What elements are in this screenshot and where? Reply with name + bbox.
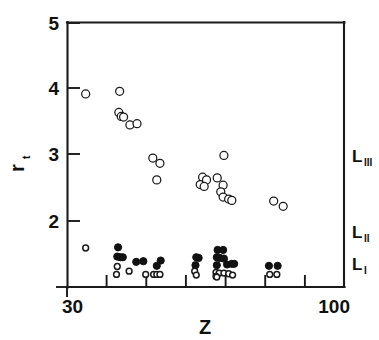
series-points-l1 <box>83 245 280 280</box>
data-point-l3 <box>200 182 208 190</box>
data-point-l3 <box>133 120 141 128</box>
data-point-l1 <box>114 272 120 278</box>
data-point-l3 <box>153 176 161 184</box>
data-point-l3 <box>220 151 228 159</box>
data-point-l1 <box>157 272 163 278</box>
data-point-l3 <box>279 202 287 210</box>
data-point-l2 <box>153 262 160 269</box>
series-points-l2 <box>114 244 282 270</box>
data-point-l1 <box>230 272 236 278</box>
data-point-l3 <box>270 197 278 205</box>
scatter-plot-figure: 5 4 3 2 30 100 Z r t <box>0 0 379 340</box>
data-point-l2 <box>119 254 126 261</box>
data-point-l1 <box>193 272 199 278</box>
series-label-l3: L III <box>352 147 373 168</box>
data-point-l2 <box>274 262 281 269</box>
data-point-l2 <box>231 260 238 267</box>
series-label-l3-base: L <box>352 147 362 166</box>
data-point-l2 <box>140 258 147 265</box>
data-point-l1 <box>214 274 220 280</box>
y-axis-title-subscript: t <box>21 155 32 159</box>
data-point-l1 <box>114 264 120 270</box>
data-point-l3 <box>156 159 164 167</box>
data-point-l2 <box>213 262 220 269</box>
data-point-l3 <box>213 174 221 182</box>
series-label-l2-base: L <box>352 223 362 242</box>
y-tick-label-4: 4 <box>48 78 59 99</box>
x-axis-title: Z <box>199 316 211 338</box>
y-tick-label-5: 5 <box>48 13 59 34</box>
data-point-l2 <box>265 262 272 269</box>
series-label-l1-subscript: I <box>364 265 367 276</box>
data-point-l3 <box>82 90 90 98</box>
y-axis-title: r t <box>6 155 32 172</box>
y-tick-label-3: 3 <box>48 144 59 165</box>
data-point-l1 <box>274 272 280 278</box>
series-label-l2-subscript: II <box>364 233 370 244</box>
data-point-l2 <box>195 254 202 261</box>
series-points-l3 <box>82 87 288 210</box>
data-point-l3 <box>149 154 157 162</box>
data-point-l2 <box>133 258 140 265</box>
x-axis-tick-labels: 30 100 <box>62 296 350 317</box>
series-label-l1-base: L <box>352 255 362 274</box>
data-point-l1 <box>83 245 89 251</box>
x-tick-label-100: 100 <box>318 296 350 317</box>
series-label-l1: L I <box>352 255 367 276</box>
series-label-l3-subscript: III <box>364 157 373 168</box>
data-point-l1 <box>143 272 149 278</box>
x-tick-label-30: 30 <box>62 296 83 317</box>
series-label-l2: L II <box>352 223 370 244</box>
data-point-l1 <box>267 272 273 278</box>
data-point-l2 <box>114 244 121 251</box>
y-axis-title-base: r <box>6 164 28 172</box>
data-point-l1 <box>126 268 132 274</box>
axis-frame <box>67 22 345 288</box>
y-tick-label-2: 2 <box>48 211 59 232</box>
data-point-l3 <box>228 196 236 204</box>
plot-svg: 5 4 3 2 30 100 Z r t <box>0 0 379 340</box>
data-point-l3 <box>116 87 124 95</box>
data-point-l2 <box>220 246 227 253</box>
data-point-l3 <box>120 113 128 121</box>
y-axis-tick-labels: 5 4 3 2 <box>48 13 59 232</box>
